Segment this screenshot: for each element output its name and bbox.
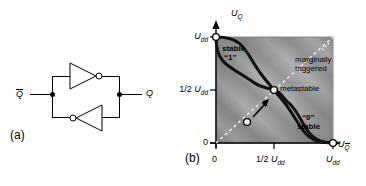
trajectory-start-point xyxy=(244,119,251,126)
inverter-bottom-icon xyxy=(69,104,103,132)
y-tick-label-half-udd: 1/2 Udd xyxy=(171,84,208,98)
bottom-branch-out-wire xyxy=(52,117,70,118)
x-tick-label-zero: 0 xyxy=(212,154,217,164)
left-terminal-label: Q xyxy=(16,89,23,99)
panel-b-phase-plot: UQ UQ xyxy=(183,0,366,186)
panel-a-circuit: Q Q (a) xyxy=(0,0,183,186)
panel-a-tag: (a) xyxy=(10,129,25,141)
right-vertical-bus xyxy=(119,76,120,118)
y-axis-arrowhead xyxy=(213,20,220,29)
y-tick-label-zero: 0 xyxy=(195,137,208,147)
left-vertical-bus xyxy=(52,76,53,118)
annotation-stable-zero-line1: “0” xyxy=(302,113,314,122)
top-branch-out-wire xyxy=(102,76,120,77)
annotation-marginally-triggered-line1: marginally xyxy=(295,55,331,64)
stable-one-point xyxy=(213,34,220,41)
annotation-metastable: metastable xyxy=(280,84,319,93)
y-tick-label-udd: Udd xyxy=(184,31,208,45)
annotation-marginally-triggered-line2: triggered xyxy=(295,64,327,73)
right-terminal-label: Q xyxy=(146,89,153,98)
x-tick-label-half-udd: 1/2 Udd xyxy=(256,154,285,168)
stable-zero-point xyxy=(330,140,337,147)
x-tick-label-udd: Udd xyxy=(326,154,340,168)
left-lead-wire xyxy=(30,94,52,95)
annotation-stable-one-line1: stable xyxy=(222,44,245,53)
inverter-top-icon xyxy=(69,62,103,90)
figure-root: Q Q (a) xyxy=(0,0,366,186)
panel-b-tag: (b) xyxy=(185,152,200,164)
bottom-branch-in-wire xyxy=(102,117,120,118)
annotation-stable-one-line2: “1” xyxy=(224,53,236,62)
top-branch-in-wire xyxy=(52,76,70,77)
metastable-point xyxy=(271,87,278,94)
annotation-stable-zero-line2: stable xyxy=(297,122,320,131)
left-terminal-label-text: Q xyxy=(16,89,23,99)
right-lead-wire xyxy=(119,94,142,95)
